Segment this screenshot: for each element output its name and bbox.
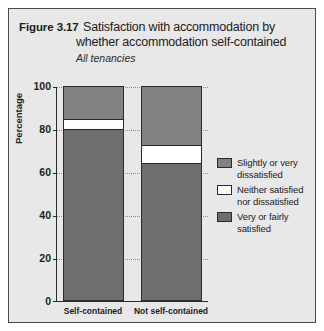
y-tick-80: 80 xyxy=(19,123,51,135)
tick-80 xyxy=(53,130,57,131)
legend-item-dissatisfied[interactable]: Slightly or very dissatisfied xyxy=(217,157,321,181)
legend-item-satisfied[interactable]: Very or fairly satisfied xyxy=(217,211,321,235)
legend-label-satisfied-line1: Very or fairly xyxy=(237,211,321,223)
y-tick-40: 40 xyxy=(19,209,51,221)
legend-label-satisfied-line2: satisfied xyxy=(237,223,321,235)
y-tick-20: 20 xyxy=(19,252,51,264)
figure-title-block: Figure 3.17 Satisfaction with accommodat… xyxy=(19,18,304,65)
figure-container: Figure 3.17 Satisfaction with accommodat… xyxy=(0,0,324,331)
figure-frame: Figure 3.17 Satisfaction with accommodat… xyxy=(8,8,316,323)
y-axis-tick-labels: 100 80 60 40 20 0 xyxy=(17,87,51,302)
axes-frame xyxy=(56,87,208,302)
tick-0 xyxy=(53,301,57,302)
tick-60 xyxy=(53,173,57,174)
bar-self-contained[interactable] xyxy=(63,86,124,301)
figure-number: Figure 3.17 xyxy=(19,21,79,33)
plot-area: Self-contained Not self-contained xyxy=(56,87,208,302)
segment-satisfied-self-contained xyxy=(64,130,123,301)
y-tick-0: 0 xyxy=(19,295,51,307)
bar-not-self-contained[interactable] xyxy=(141,86,202,301)
tick-20 xyxy=(53,259,57,260)
legend-label-neither-line1: Neither satisfied xyxy=(237,184,321,196)
legend-label-neither-line2: nor dissatisfied xyxy=(237,196,321,208)
tick-100 xyxy=(53,87,57,88)
legend-swatch-neither-icon xyxy=(217,185,232,195)
legend-swatch-dissatisfied-icon xyxy=(217,158,232,168)
legend-label-dissatisfied-line2: dissatisfied xyxy=(237,169,321,181)
tick-40 xyxy=(53,216,57,217)
segment-neither-not-self-contained xyxy=(142,145,201,164)
segment-dissatisfied-not-self-contained xyxy=(142,87,201,145)
figure-title-line2: whether accommodation self-contained xyxy=(76,35,304,50)
x-tick-label-not-self-contained: Not self-contained xyxy=(122,306,220,316)
figure-title-line1: Satisfaction with accommodation by xyxy=(83,20,275,34)
y-tick-60: 60 xyxy=(19,166,51,178)
segment-dissatisfied-self-contained xyxy=(64,87,123,119)
title-first-row: Figure 3.17 Satisfaction with accommodat… xyxy=(19,18,304,35)
chart-legend: Slightly or very dissatisfied Neither sa… xyxy=(217,157,321,238)
legend-label-dissatisfied-line1: Slightly or very xyxy=(237,157,321,169)
legend-item-neither[interactable]: Neither satisfied nor dissatisfied xyxy=(217,184,321,208)
y-tick-100: 100 xyxy=(19,80,51,92)
figure-subtitle: All tenancies xyxy=(76,51,304,65)
segment-satisfied-not-self-contained xyxy=(142,164,201,301)
segment-neither-self-contained xyxy=(64,119,123,130)
legend-swatch-satisfied-icon xyxy=(217,212,232,222)
